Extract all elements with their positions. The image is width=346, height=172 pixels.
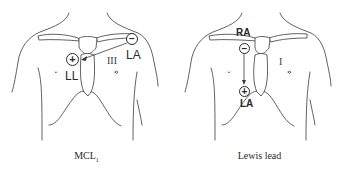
electrode-label-ra: RA [236,28,250,38]
caption-lewis-lead: Lewis lead [173,150,346,161]
lead-roman-numeral: III [107,56,117,66]
panel-mcl1: − LA + LL III MCL1 [0,0,173,172]
negative-electrode-icon: − [126,33,138,45]
negative-electrode-icon: − [239,43,250,54]
caption-mcl1: MCL1 [0,150,173,163]
positive-electrode-icon: + [239,86,250,97]
lead-roman-numeral: I [279,57,282,67]
arrowhead-icon [242,80,246,85]
electrode-label-ll: LL [65,70,78,82]
panel-lewis-lead: RA − + LA I Lewis lead [173,0,346,172]
positive-electrode-icon: + [66,53,79,66]
torso-outline-lewis [173,0,346,172]
electrode-label-la: LA [126,49,141,61]
electrode-label-la: LA [240,99,253,109]
torso-outline-mcl1 [0,0,173,172]
